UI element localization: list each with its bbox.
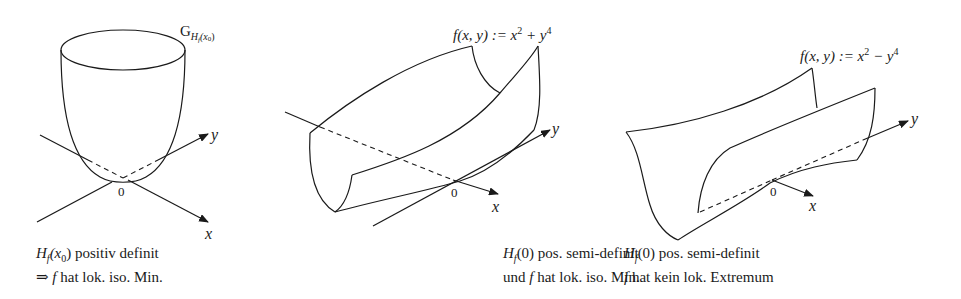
origin-label: 0: [770, 184, 777, 199]
caption-line-2: ⇒ f hat lok. iso. Min.: [36, 268, 163, 286]
surface-front-inner-left: [335, 175, 352, 212]
caption-line-1: Hf(0) pos. semi-definit: [624, 244, 774, 268]
x-axis-label: x: [491, 198, 499, 215]
graph-label: GHf(x0): [180, 23, 215, 44]
panel-semi-definite-no-extremum: y x 0 f(x, y) := x2 − y4 Hf(0) pos. semi…: [600, 0, 961, 299]
x-axis-hidden: [320, 127, 453, 180]
surface-left-wall: [626, 132, 678, 240]
surface-back-edge: [310, 46, 472, 133]
x-axis-label: x: [204, 225, 212, 242]
paraboloid-rim: [61, 30, 185, 70]
surface-back-right-wall: [472, 46, 500, 93]
y-axis: [373, 130, 550, 226]
x-axis-back: [37, 182, 112, 222]
origin-label: 0: [451, 185, 458, 200]
surface-right-wall: [534, 46, 540, 130]
function-formula: f(x, y) := x2 + y4: [453, 25, 552, 44]
y-axis-label: y: [550, 120, 560, 138]
surface-left-wall: [310, 133, 335, 212]
y-axis-front-left: [40, 135, 88, 160]
y-axis-hidden-right: [772, 140, 863, 180]
surface-front-s-curve: [698, 88, 875, 213]
y-axis-hidden: [700, 180, 772, 212]
caption-line-1: Hf(x0) positiv definit: [36, 244, 163, 268]
caption-semi-definite-no-extremum: Hf(0) pos. semi-definit f hat kein lok. …: [624, 244, 774, 286]
x-axis-hidden-right: [123, 160, 158, 178]
y-axis-hidden-left: [88, 160, 123, 178]
x-axis-back: [285, 112, 320, 127]
y-axis-front-right: [158, 134, 208, 160]
panel-semi-definite-min: y x 0 f(x, y) := x2 + y4 Hf(0) pos. semi…: [260, 0, 600, 299]
surface-right-wall: [857, 88, 875, 160]
origin-label: 0: [118, 184, 125, 199]
surface-back-right-wall: [812, 68, 817, 108]
surface-bottom-edge: [678, 160, 857, 240]
y-axis-label: y: [209, 126, 219, 144]
surface-front-edge: [352, 46, 538, 175]
x-axis-front: [128, 180, 208, 222]
x-axis-label: x: [808, 197, 816, 214]
function-formula: f(x, y) := x2 − y4: [800, 46, 899, 65]
x-axis-front: [453, 180, 498, 194]
y-axis-label: y: [909, 110, 919, 128]
y-axis-front: [863, 121, 908, 140]
caption-line-2: f hat kein lok. Extremum: [624, 268, 774, 286]
surface-back-edge: [626, 68, 812, 132]
panel-positive-definite: y x 0 GHf(x0) Hf(x0) positiv definit ⇒ f…: [0, 0, 260, 299]
x-axis: [772, 180, 813, 196]
caption-positive-definite: Hf(x0) positiv definit ⇒ f hat lok. iso.…: [36, 244, 163, 286]
